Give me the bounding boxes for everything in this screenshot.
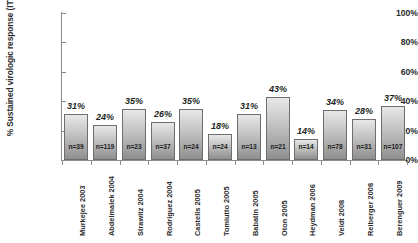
x-axis-tick-mark [206,161,207,165]
x-axis-tick-mark [350,161,351,165]
y-axis-line [61,12,62,161]
x-axis-category-label: Tomiutto 2005 [223,186,230,236]
y-axis-title: % Sustained virologic response (ITT) [0,0,20,186]
bar-sample-size-label: n=13 [233,144,265,151]
bar-sample-size-label: n=107 [377,144,409,151]
bar-sample-size-label: n=39 [60,144,92,151]
bar-sample-size-label: n=23 [118,144,150,151]
bar-value-label: 31% [56,102,96,111]
x-axis-category-label: Castells 2005 [194,189,201,236]
x-axis-tick-mark [177,161,178,165]
bar [352,119,376,160]
x-axis-category-label: Berenguer 2009 [396,181,403,236]
bar-value-label: 14% [286,127,326,136]
x-axis-category-label: Oton 2005 [281,200,288,236]
y-axis-tick-mark [62,13,66,14]
bar-value-label: 34% [315,98,355,107]
bar [151,122,175,160]
x-axis-tick-mark [148,161,149,165]
bar-chart-figure: % Sustained virologic response (ITT) 100… [0,0,418,243]
bar-sample-size-label: n=119 [89,144,121,151]
x-axis-tick-mark [321,161,322,165]
x-axis-category-label: Reiberger 2008 [367,183,374,236]
bar [237,114,261,160]
bar-value-label: 28% [344,107,384,116]
bar-sample-size-label: n=14 [290,144,322,151]
x-axis-category-label: Murkejee 2003 [79,185,86,236]
x-axis-tick-mark [91,161,92,165]
bar-value-label: 43% [258,85,298,94]
x-axis-tick-mark [292,161,293,165]
x-axis-category-label: Heydman 2006 [309,184,316,236]
x-axis-tick-mark [263,161,264,165]
x-axis-category-label: Veldt 2008 [338,200,345,236]
bar-value-label: 26% [143,110,183,119]
bar-sample-size-label: n=31 [348,144,380,151]
x-axis-tick-mark [120,161,121,165]
x-axis-tick-mark [407,161,408,165]
y-axis-tick-label: 80% [370,38,418,47]
bar-sample-size-label: n=24 [175,144,207,151]
x-axis-tick-mark [62,161,63,165]
x-axis-category-label: Babatin 2005 [252,190,259,236]
x-axis-category-label: Rodriguez 2004 [166,181,173,236]
x-axis-category-label: Abdelmalek 2004 [108,176,115,236]
bar-value-label: 24% [85,113,125,122]
y-axis-tick-mark [62,72,66,73]
y-axis-tick-label: 60% [370,68,418,77]
bar [323,110,347,160]
bar-sample-size-label: n=24 [204,144,236,151]
y-axis-tick-mark [62,42,66,43]
bar-value-label: 37% [373,94,413,103]
x-axis-category-label: Strawitz 2004 [137,189,144,236]
bar-value-label: 31% [229,102,269,111]
bar-value-label: 35% [171,97,211,106]
bar-sample-size-label: n=78 [319,144,351,151]
bar-value-label: 35% [114,97,154,106]
y-axis-tick-label: 100% [370,9,418,18]
bar [179,109,203,160]
x-axis-tick-mark [378,161,379,165]
x-axis-tick-mark [235,161,236,165]
bar [381,106,405,160]
bar-value-label: 18% [200,122,240,131]
